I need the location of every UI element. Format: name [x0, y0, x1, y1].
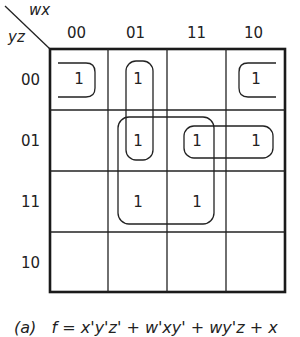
cell-r0-c1: 1: [128, 70, 148, 88]
row-variable-label: yz: [8, 28, 25, 46]
row-header-10: 10: [21, 254, 40, 272]
row-header-11: 11: [21, 193, 40, 211]
row-header-00: 00: [21, 71, 40, 89]
caption-expression: f = x'y'z' + w'xy' + wy'z + x: [52, 318, 278, 337]
figure-caption: (a) f = x'y'z' + w'xy' + wy'z + x: [14, 318, 278, 337]
col-variable-label: wx: [29, 1, 50, 19]
cell-r1-c1: 1: [128, 132, 148, 150]
col-header-11: 11: [187, 24, 206, 42]
col-header-01: 01: [126, 24, 145, 42]
col-header-10: 10: [244, 24, 263, 42]
cell-r1-c3: 1: [246, 132, 266, 150]
cell-r0-c3: 1: [246, 70, 266, 88]
col-header-00: 00: [67, 24, 86, 42]
row-header-01: 01: [21, 132, 40, 150]
cell-r0-c0: 1: [69, 70, 89, 88]
cell-r1-c2: 1: [187, 132, 207, 150]
cell-r2-c1: 1: [128, 193, 148, 211]
cell-r2-c2: 1: [187, 193, 207, 211]
caption-label: (a): [14, 318, 36, 337]
